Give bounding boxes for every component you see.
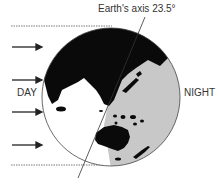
day-label: DAY	[17, 87, 37, 98]
arrow-right-icon	[12, 44, 42, 50]
axis-label: Earth's axis 23.5°	[98, 3, 176, 14]
island	[113, 115, 117, 118]
island	[133, 123, 137, 126]
island	[140, 120, 144, 123]
island	[121, 115, 126, 119]
island	[56, 107, 66, 112]
globe	[40, 20, 200, 175]
island	[115, 122, 118, 125]
island	[99, 110, 103, 112]
arrow-right-icon	[12, 109, 42, 115]
night-label: NIGHT	[184, 87, 215, 98]
arrow-right-icon	[12, 142, 42, 148]
arrow-right-icon	[12, 77, 42, 83]
island	[130, 115, 136, 119]
island	[115, 158, 121, 161]
